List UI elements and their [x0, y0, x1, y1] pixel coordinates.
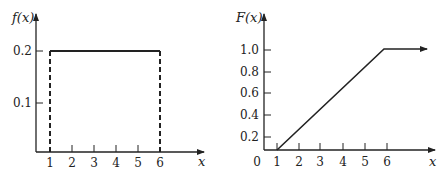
pdf-x-tick-label: 4: [112, 156, 120, 170]
pdf-chart: f(x) x 0.2 0.1 1 2 3 4 5 6: [11, 10, 206, 170]
cdf-y-ticks: 1.0 0.8 0.6 0.4 0.2: [240, 43, 271, 144]
cdf-x-tick-label: 1: [273, 155, 281, 169]
cdf-y-tick-label: 0.4: [240, 108, 259, 122]
cdf-x-axis-label: x: [429, 154, 437, 169]
pdf-x-tick-label: 1: [46, 156, 54, 170]
pdf-x-tick-label: 3: [90, 156, 98, 170]
pdf-x-axis-label: x: [198, 154, 206, 169]
cdf-y-tick-label: 0.2: [240, 130, 259, 144]
pdf-y-tick-label: 0.2: [13, 44, 32, 58]
pdf-x-ticks: 1 2 3 4 5 6: [46, 145, 164, 170]
pdf-y-tick-label: 0.1: [13, 96, 32, 110]
cdf-y-tick-label: 0.6: [240, 86, 259, 100]
cdf-x-tick-label: 6: [383, 155, 391, 169]
cdf-x-ticks: 1 2 3 4 5 6: [273, 143, 391, 169]
cdf-x-tick-label: 2: [295, 155, 303, 169]
cdf-chart: F(x) x 0 1.0 0.8 0.6 0.4 0.2 1 2 3 4 5: [235, 10, 437, 169]
cdf-origin-label: 0: [253, 155, 261, 169]
cdf-x-tick-label: 4: [339, 155, 347, 169]
chart-canvas: f(x) x 0.2 0.1 1 2 3 4 5 6 F(x) x 0: [0, 0, 446, 175]
pdf-y-ticks: 0.2 0.1: [13, 44, 43, 110]
pdf-x-tick-label: 2: [68, 156, 76, 170]
cdf-x-tick-label: 5: [361, 155, 369, 169]
pdf-x-tick-label: 6: [156, 156, 164, 170]
cdf-curve: [277, 49, 427, 150]
cdf-y-tick-label: 1.0: [240, 43, 259, 57]
cdf-x-tick-label: 3: [316, 155, 324, 169]
cdf-y-axis-label: F(x): [235, 10, 263, 25]
pdf-x-tick-label: 5: [134, 156, 142, 170]
pdf-y-axis-label: f(x): [11, 10, 34, 25]
cdf-y-tick-label: 0.8: [240, 65, 259, 79]
